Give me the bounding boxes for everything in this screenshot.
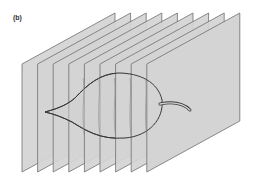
serial-section-diagram: [0, 0, 255, 181]
section-planes: [22, 13, 240, 172]
